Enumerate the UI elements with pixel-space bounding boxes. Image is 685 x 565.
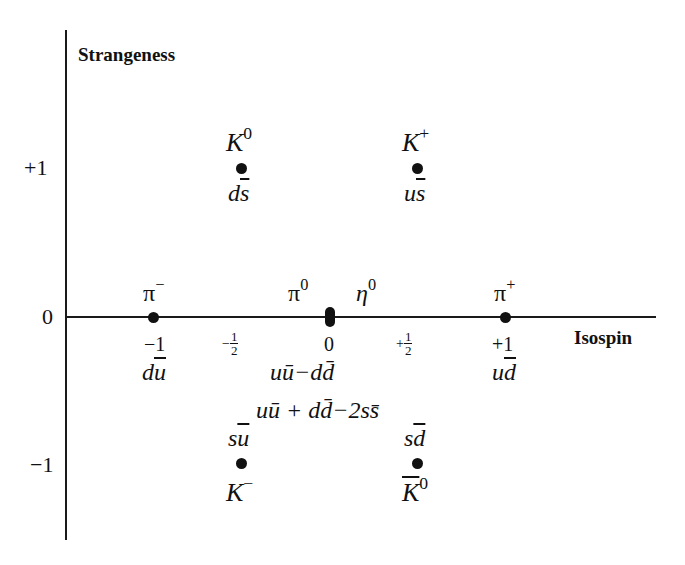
x-tick-minus1: −1 [144,334,165,354]
strangeness-axis [65,30,67,540]
k0-quarks: ds [228,181,249,205]
eta0-label: η0 [356,281,376,305]
eta0-quarks: uū + dd̄−2ss̄ [256,398,379,422]
x-tick-0: 0 [324,334,334,354]
piplus-label: π+ [494,281,515,305]
x-tick-minus-half: −12 [222,330,238,357]
y-tick-0: 0 [42,306,53,328]
k0-label: K0 [226,130,252,156]
piminus-label: π− [143,281,164,305]
y-tick-minus1: −1 [30,454,53,476]
kplus-point [412,163,423,174]
kplus-label: K+ [402,130,429,156]
kminus-label: K− [226,480,253,506]
pi0-quarks: uū−dd̄ [270,360,334,384]
kminus-point [236,458,247,469]
antik0-label: K0 [402,480,428,506]
antik0-quarks: sd [404,426,425,450]
x-axis-title: Isospin [574,328,632,347]
y-axis-title: Strangeness [78,45,175,64]
kminus-quarks: su [228,426,249,450]
pi0-label: π0 [288,281,308,305]
y-tick-plus1: +1 [24,157,47,179]
k0-point [236,163,247,174]
x-tick-plus1: +1 [492,334,513,354]
piplus-quarks: ud [492,360,516,384]
kplus-quarks: us [404,181,425,205]
antik0-point [412,458,423,469]
piminus-quarks: du [142,360,166,384]
piminus-point [148,312,159,323]
pi0-eta0-point [325,307,335,327]
x-tick-plus-half: +12 [396,330,412,357]
piplus-point [500,312,511,323]
